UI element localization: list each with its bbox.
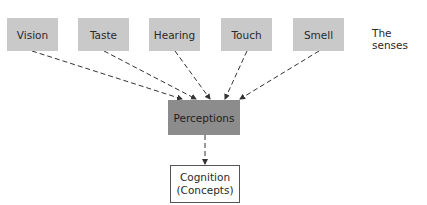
sense-node-smell: Smell bbox=[293, 18, 344, 51]
sense-node-taste: Taste bbox=[78, 18, 129, 51]
senses-caption: The senses bbox=[372, 27, 427, 51]
node-label: Hearing bbox=[154, 29, 195, 41]
sense-node-hearing: Hearing bbox=[149, 18, 200, 51]
edge-vision-perceptions bbox=[32, 51, 182, 99]
perceptions-node: Perceptions bbox=[168, 100, 240, 135]
edge-taste-perceptions bbox=[104, 51, 196, 99]
cognition-node: Cognition (Concepts) bbox=[170, 165, 240, 203]
edge-touch-perceptions bbox=[225, 51, 247, 99]
sense-node-touch: Touch bbox=[221, 18, 272, 51]
node-label: Touch bbox=[231, 29, 261, 41]
edge-smell-perceptions bbox=[240, 51, 319, 99]
node-label: Taste bbox=[90, 29, 117, 41]
sense-node-vision: Vision bbox=[7, 18, 58, 51]
node-label: Perceptions bbox=[174, 112, 235, 124]
node-label: Vision bbox=[17, 29, 48, 41]
node-label-line1: Cognition bbox=[180, 171, 230, 184]
node-label: Smell bbox=[304, 29, 333, 41]
node-label-line2: (Concepts) bbox=[176, 184, 233, 197]
edge-hearing-perceptions bbox=[175, 51, 210, 99]
